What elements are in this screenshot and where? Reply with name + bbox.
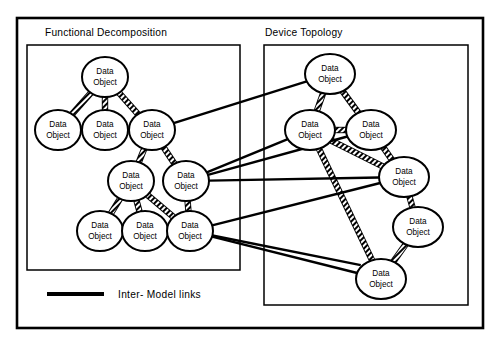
- node-shape: [346, 110, 396, 150]
- node-label-line2: Object: [93, 131, 117, 140]
- node-label-line1: Data: [395, 167, 413, 176]
- node-label-line2: Object: [298, 131, 322, 140]
- node-shape: [305, 54, 355, 94]
- node-label-line1: Data: [362, 120, 380, 129]
- node-label-line2: Object: [88, 232, 112, 241]
- node-label-line1: Data: [181, 221, 199, 230]
- node-shape: [393, 207, 443, 247]
- data-object-node: DataObject: [122, 211, 168, 251]
- data-object-node: DataObject: [129, 110, 175, 150]
- intra-model-link: [136, 200, 139, 211]
- node-label-line1: Data: [177, 171, 195, 180]
- legend-label: Inter- Model links: [118, 289, 201, 300]
- node-shape: [356, 259, 406, 299]
- node-label-line1: Data: [122, 171, 140, 180]
- node-label-line2: Object: [46, 131, 70, 140]
- node-shape: [129, 110, 175, 150]
- node-label-line1: Data: [321, 64, 339, 73]
- intra-model-link: [188, 201, 189, 211]
- node-label-line2: Object: [369, 280, 393, 289]
- node-shape: [82, 110, 128, 150]
- node-label-line2: Object: [119, 182, 143, 191]
- data-object-node: DataObject: [379, 157, 429, 197]
- node-label-line1: Data: [136, 221, 154, 230]
- intra-model-link: [409, 197, 412, 208]
- node-label-line2: Object: [318, 75, 342, 84]
- node-label-line2: Object: [406, 228, 430, 237]
- panel-title-device-topology: Device Topology: [265, 27, 343, 38]
- node-label-line1: Data: [409, 217, 427, 226]
- node-label-line1: Data: [301, 120, 319, 129]
- node-shape: [122, 211, 168, 251]
- node-label-line1: Data: [49, 120, 67, 129]
- node-shape: [167, 211, 213, 251]
- node-label-line2: Object: [133, 232, 157, 241]
- diagram-svg: DataObjectDataObjectDataObjectDataObject…: [0, 0, 501, 344]
- data-object-node: DataObject: [163, 161, 209, 201]
- node-shape: [285, 110, 335, 150]
- node-shape: [82, 57, 128, 97]
- node-label-line1: Data: [143, 120, 161, 129]
- node-shape: [35, 110, 81, 150]
- node-label-line1: Data: [372, 269, 390, 278]
- node-label-line2: Object: [93, 78, 117, 87]
- node-label-line2: Object: [178, 232, 202, 241]
- data-object-node: DataObject: [77, 211, 123, 251]
- data-object-node: DataObject: [285, 110, 335, 150]
- node-label-line1: Data: [91, 221, 109, 230]
- node-label-line2: Object: [140, 131, 164, 140]
- data-object-node: DataObject: [35, 110, 81, 150]
- data-object-node: DataObject: [393, 207, 443, 247]
- data-object-node: DataObject: [305, 54, 355, 94]
- node-shape: [379, 157, 429, 197]
- node-label-line2: Object: [174, 182, 198, 191]
- node-label-line1: Data: [96, 120, 114, 129]
- node-label-line2: Object: [359, 131, 383, 140]
- diagram-canvas: DataObjectDataObjectDataObjectDataObject…: [0, 0, 501, 344]
- node-shape: [77, 211, 123, 251]
- data-object-node: DataObject: [108, 161, 154, 201]
- node-shape: [108, 161, 154, 201]
- data-object-node: DataObject: [346, 110, 396, 150]
- node-label-line2: Object: [392, 178, 416, 187]
- data-object-node: DataObject: [82, 110, 128, 150]
- data-object-node: DataObject: [82, 57, 128, 97]
- data-object-node: DataObject: [167, 211, 213, 251]
- panel-title-functional-decomposition: Functional Decomposition: [45, 27, 167, 38]
- node-label-line1: Data: [96, 67, 114, 76]
- data-object-node: DataObject: [356, 259, 406, 299]
- node-shape: [163, 161, 209, 201]
